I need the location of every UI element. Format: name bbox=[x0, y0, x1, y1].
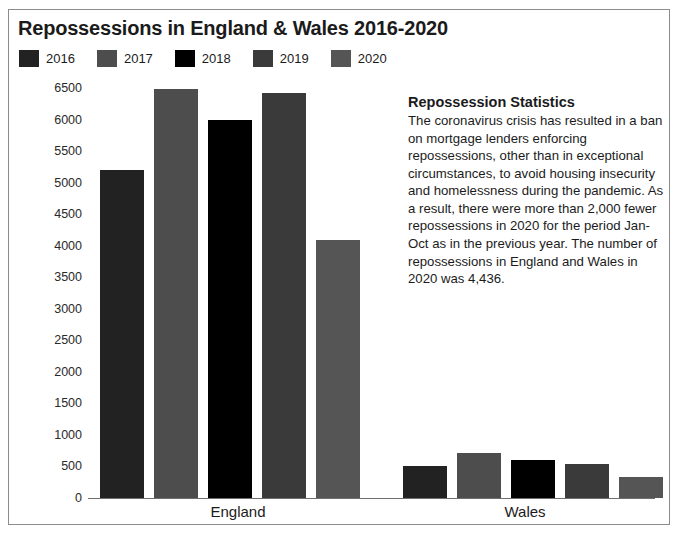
y-tick-label: 3000 bbox=[54, 302, 82, 316]
y-tick-label: 4000 bbox=[54, 239, 82, 253]
bar-wales-2019 bbox=[565, 464, 609, 498]
y-tick-label: 6000 bbox=[54, 113, 82, 127]
legend-label: 2017 bbox=[124, 51, 153, 66]
side-panel: Repossession Statistics The coronavirus … bbox=[408, 93, 666, 288]
bar-england-2017 bbox=[154, 89, 198, 498]
y-tick-label: 6500 bbox=[54, 81, 82, 95]
y-tick-label: 5500 bbox=[54, 144, 82, 158]
legend-item-2018: 2018 bbox=[175, 50, 231, 67]
legend-item-2020: 2020 bbox=[331, 50, 387, 67]
legend-swatch-icon bbox=[175, 50, 195, 67]
bar-england-2019 bbox=[262, 93, 306, 498]
y-tick-label: 1500 bbox=[54, 396, 82, 410]
bar-wales-2017 bbox=[457, 453, 501, 498]
y-tick-label: 3500 bbox=[54, 270, 82, 284]
page-title: Repossessions in England & Wales 2016-20… bbox=[18, 17, 448, 40]
bar-group-england bbox=[88, 88, 388, 498]
y-tick-label: 0 bbox=[75, 491, 82, 505]
legend-label: 2020 bbox=[358, 51, 387, 66]
y-tick-label: 2000 bbox=[54, 365, 82, 379]
bar-wales-2018 bbox=[511, 460, 555, 498]
chart-figure: Repossessions in England & Wales 2016-20… bbox=[0, 0, 679, 534]
y-tick-label: 500 bbox=[61, 459, 82, 473]
x-axis-line bbox=[88, 498, 655, 499]
legend-swatch-icon bbox=[331, 50, 351, 67]
bar-wales-2016 bbox=[403, 466, 447, 498]
legend-item-2017: 2017 bbox=[97, 50, 153, 67]
y-tick-label: 1000 bbox=[54, 428, 82, 442]
legend-item-2019: 2019 bbox=[253, 50, 309, 67]
x-axis-label-wales: Wales bbox=[504, 503, 545, 520]
bar-england-2016 bbox=[100, 170, 144, 498]
bar-england-2020 bbox=[316, 240, 360, 498]
legend-label: 2019 bbox=[280, 51, 309, 66]
y-axis-tick-labels: 6500600055005000450040003500300025002000… bbox=[20, 0, 82, 534]
side-panel-title: Repossession Statistics bbox=[408, 93, 666, 111]
y-tick-label: 4500 bbox=[54, 207, 82, 221]
legend-swatch-icon bbox=[97, 50, 117, 67]
y-tick-label: 2500 bbox=[54, 333, 82, 347]
y-tick-label: 5000 bbox=[54, 176, 82, 190]
side-panel-body: The coronavirus crisis has resulted in a… bbox=[408, 112, 666, 287]
legend-swatch-icon bbox=[253, 50, 273, 67]
legend-label: 2018 bbox=[202, 51, 231, 66]
bar-england-2018 bbox=[208, 120, 252, 498]
x-axis-label-england: England bbox=[210, 503, 265, 520]
bar-wales-2020 bbox=[619, 477, 663, 498]
